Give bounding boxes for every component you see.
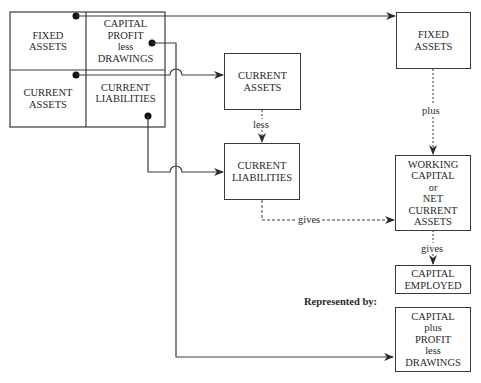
gives-vertical-label: gives: [420, 243, 444, 254]
current-assets-box: CURRENT ASSETS: [224, 53, 301, 110]
capital-plus-profit-box: CAPITAL plus PROFIT less DRAWINGS: [395, 307, 471, 372]
current-liabilities-box: CURRENT LIABILITIES: [224, 143, 300, 200]
plus-label: plus: [421, 105, 441, 116]
fixed-assets-box: FIXED ASSETS: [396, 12, 471, 69]
represented-by-label: Represented by:: [303, 296, 378, 307]
capital-employed-box: CAPITAL EMPLOYED: [395, 265, 471, 294]
grid-current-assets: CURRENT ASSETS: [10, 70, 86, 127]
gives-horizontal-label: gives: [297, 214, 321, 225]
grid-fixed-assets: FIXED ASSETS: [10, 12, 86, 70]
grid-current-liabilities: CURRENT LIABILITIES: [86, 70, 165, 116]
grid-capital-profit-drawings: CAPITAL PROFIT less DRAWINGS: [86, 12, 165, 70]
less-label: less: [252, 119, 270, 130]
working-capital-box: WORKING CAPITAL or NET CURRENT ASSETS: [395, 155, 471, 231]
